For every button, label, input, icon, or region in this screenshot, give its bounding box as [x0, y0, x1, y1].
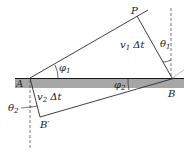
label-v2-dt: v2 Δt	[37, 91, 63, 104]
label-theta2: θ2	[8, 102, 19, 115]
phi1-arc	[55, 65, 58, 78]
refraction-diagram: P A B B′ v1 Δt v2 Δt θ1 θ2 φ1 φ2	[0, 0, 193, 158]
label-A: A	[15, 78, 23, 89]
theta2-arc	[30, 106, 37, 107]
label-phi1: φ1	[59, 62, 70, 75]
label-v1-dt: v1 Δt	[120, 39, 146, 52]
label-P: P	[130, 5, 138, 16]
label-theta1: θ1	[160, 38, 171, 51]
label-B: B	[167, 88, 175, 99]
label-B-prime: B′	[39, 119, 50, 130]
theta1-arc	[163, 60, 171, 62]
theta2-pointer	[21, 107, 31, 108]
faint-extension	[172, 70, 184, 78]
